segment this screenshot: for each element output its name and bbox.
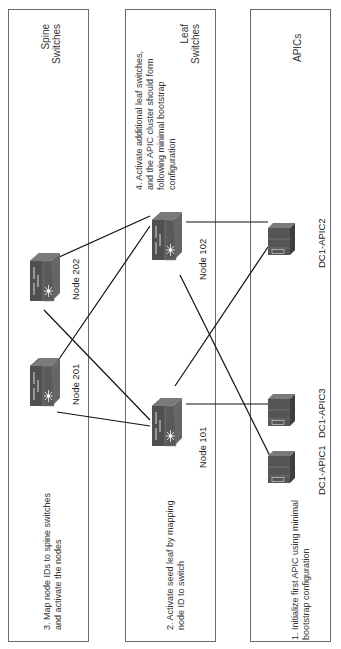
server-apic1-icon [268,451,295,483]
apic-step-text: 1. Initialize first APIC using minimal b… [290,500,312,640]
spine-title: Spine Switches [40,24,62,64]
leaf-title-line2: Switches [190,24,201,64]
leaf-title-line1: Leaf [179,24,190,64]
leaf-step2-line2: node ID to switch [176,500,187,630]
apic2-label: DC1-APIC2 [316,218,327,268]
switch-spine_202-icon [30,253,60,301]
node-201-label: Node 201 [70,364,81,405]
leaf-step4-line4: configuration [167,51,178,190]
link-spine_202-leaf_102 [57,216,150,258]
leaf-step2-line1: 2. Activate seed leaf by mapping [165,500,176,630]
apics-title: APICs [292,34,303,62]
server-apic2-icon [268,223,295,255]
switch-leaf_102-icon [152,212,182,260]
leaf-step4-line3: following minimal bootstrap [156,51,167,190]
apic-step-line1: 1. Initialize first APIC using minimal [290,500,301,640]
link-leaf_102-apic1 [180,275,272,460]
leaf-title: Leaf Switches [179,24,201,64]
spine-title-line2: Switches [51,24,62,64]
apic-step-line2: bootstrap configuration [301,500,312,640]
spine-step-line1: 3. Map node IDs to spine switches [42,493,53,630]
apic3-label: DC1-APIC3 [316,388,327,438]
node-202-label: Node 202 [70,259,81,300]
server-apic3-icon [268,394,295,426]
node-102-label: Node 102 [197,239,208,280]
leaf-step4-text: 4. Activate additional leaf switches, an… [134,51,178,190]
spine-step-text: 3. Map node IDs to spine switches and ac… [42,493,64,630]
switch-spine_201-icon [30,358,60,406]
apic1-label: DC1-APIC1 [316,445,327,495]
spine-title-line1: Spine [40,24,51,64]
link-leaf_101-apic2 [175,247,268,386]
spine-step-line2: and activate the nodes [53,493,64,630]
leaf-step4-line2: and the APIC cluster should form [145,51,156,190]
leaf-step2-text: 2. Activate seed leaf by mapping node ID… [165,500,187,630]
link-spine_201-leaf_101 [57,412,150,426]
switch-leaf_101-icon [152,398,182,446]
leaf-step4-line1: 4. Activate additional leaf switches, [134,51,145,190]
node-101-label: Node 101 [197,427,208,468]
